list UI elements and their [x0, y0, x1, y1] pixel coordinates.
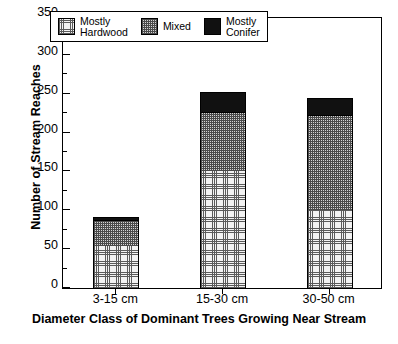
- y-tick-minor: [63, 268, 67, 269]
- legend-label: Mostly Hardwood: [80, 16, 128, 37]
- bar-3-15-cm: [93, 217, 139, 288]
- y-tick-major: [63, 209, 70, 210]
- x-tick-label: 3-15 cm: [65, 292, 165, 306]
- bar-segment-mixed: [307, 115, 353, 209]
- y-tick-label: 200: [24, 124, 58, 134]
- legend-label: Mostly Conifer: [226, 16, 260, 37]
- y-tick-major: [63, 54, 70, 55]
- y-tick-minor: [63, 112, 67, 113]
- y-tick-label: 0: [24, 279, 58, 289]
- y-tick-minor: [63, 73, 67, 74]
- bar-segment-mostly-hardwood: [307, 210, 353, 288]
- bar-segment-mostly-hardwood: [93, 246, 139, 288]
- legend-swatch-icon: [204, 18, 221, 35]
- y-axis-tick-labels: 050100150200250300350: [20, 17, 58, 289]
- y-tick-label: 250: [24, 85, 58, 95]
- legend-item-mostly-conifer: Mostly Conifer: [204, 16, 260, 37]
- y-tick-label: 300: [24, 46, 58, 56]
- plot-area: [62, 17, 382, 289]
- legend-swatch-icon: [58, 18, 75, 35]
- y-tick-minor: [63, 190, 67, 191]
- x-axis-tick-labels: 3-15 cm15-30 cm30-50 cm: [62, 292, 382, 310]
- bar-15-30-cm: [200, 92, 246, 288]
- x-tick-label: 30-50 cm: [279, 292, 379, 306]
- y-tick-label: 150: [24, 162, 58, 172]
- x-axis-title: Diameter Class of Dominant Trees Growing…: [0, 312, 398, 326]
- chart-legend: Mostly HardwoodMixedMostly Conifer: [50, 11, 268, 42]
- y-tick-major: [63, 93, 70, 94]
- legend-swatch-icon: [141, 18, 158, 35]
- bar-segment-mixed: [200, 112, 246, 170]
- y-tick-label: 50: [24, 240, 58, 250]
- legend-item-mixed: Mixed: [141, 18, 191, 35]
- stacked-bar-chart: Number of Stream Reaches 050100150200250…: [0, 0, 398, 344]
- y-tick-label: 100: [24, 201, 58, 211]
- bar-segment-mostly-hardwood: [200, 171, 246, 288]
- y-tick-major: [63, 170, 70, 171]
- legend-label: Mixed: [163, 21, 191, 32]
- legend-item-mostly-hardwood: Mostly Hardwood: [58, 16, 128, 37]
- x-tick-label: 15-30 cm: [172, 292, 272, 306]
- bar-segment-mostly-conifer: [307, 98, 353, 116]
- bar-30-50-cm: [307, 98, 353, 288]
- y-tick-major: [63, 132, 70, 133]
- y-tick-minor: [63, 229, 67, 230]
- bar-segment-mostly-conifer: [200, 92, 246, 112]
- y-tick-minor: [63, 151, 67, 152]
- bar-segment-mixed: [93, 220, 139, 246]
- y-tick-major: [63, 248, 70, 249]
